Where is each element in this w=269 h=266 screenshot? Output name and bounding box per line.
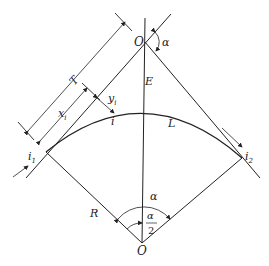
curve-length-label: L — [167, 117, 175, 130]
y-coord-label: yi — [107, 92, 116, 107]
external-distance-label: E — [144, 75, 153, 88]
deflection-angle-arc — [155, 32, 159, 51]
direction-arrow-in — [13, 166, 28, 177]
dimension-tick — [82, 83, 100, 100]
half-angle-numerator: α — [147, 210, 154, 221]
center-label: O — [137, 244, 147, 258]
center-angle-arc — [118, 207, 170, 219]
center-angle-label: α — [150, 190, 158, 203]
curve-diagram: O α E L i T xi yi R α α 2 O i1 i2 — [0, 0, 269, 266]
radius-line-left — [46, 152, 142, 243]
end-point-label: i2 — [245, 150, 254, 165]
vertex-label: O — [134, 35, 144, 49]
half-angle-arc — [127, 223, 142, 229]
x-coord-label: xi — [58, 107, 66, 122]
bisector-line — [142, 18, 145, 243]
start-point-label: i1 — [28, 150, 36, 165]
radius-label: R — [89, 207, 98, 220]
dimension-tick — [115, 13, 132, 31]
forward-tangent-line — [145, 42, 260, 178]
deflection-angle-label: α — [162, 36, 170, 49]
tangent-length-label: T — [67, 72, 83, 87]
point-i-label: i — [111, 115, 115, 128]
half-angle-denominator: 2 — [148, 225, 154, 236]
dimension-tick — [18, 122, 34, 140]
